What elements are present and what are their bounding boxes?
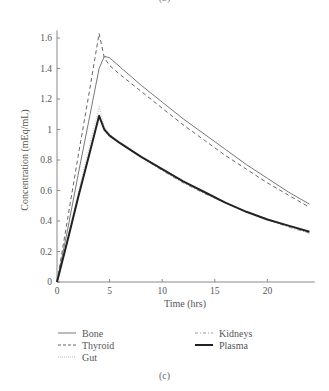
y-tick-label: 0.2 [40, 247, 52, 257]
series-group [57, 33, 310, 282]
legend-label: Kidneys [219, 328, 252, 339]
legend-swatch-kidneys [195, 330, 213, 336]
legend-item-plasma: Plasma [195, 339, 248, 351]
y-tick-label: 1 [47, 125, 52, 135]
series-plasma [57, 116, 310, 282]
y-axis-title: Concentration (mEq/mL) [19, 109, 31, 210]
series-kidneys [57, 116, 310, 282]
axes: 0510152000.20.40.60.811.21.41.6 [40, 30, 315, 296]
legend-label: Gut [82, 352, 97, 363]
y-tick-label: 1.6 [40, 33, 52, 43]
x-tick-label: 5 [107, 286, 112, 296]
legend-swatch-plasma [195, 342, 213, 348]
legend-swatch-gut [58, 354, 76, 360]
bottom-caption: (c) [0, 370, 329, 381]
legend-item-gut: Gut [58, 351, 97, 363]
legend-label: Thyroid [82, 340, 114, 351]
y-tick-label: 1.4 [40, 64, 52, 74]
legend: Bone Thyroid Gut Kidneys Plasma [58, 327, 298, 367]
x-tick-label: 0 [55, 286, 60, 296]
line-chart: 0510152000.20.40.60.811.21.41.6 Time (hr… [0, 0, 329, 320]
x-tick-label: 15 [210, 286, 220, 296]
x-tick-label: 20 [263, 286, 273, 296]
y-tick-label: 0.4 [40, 216, 52, 226]
y-tick-label: 0.8 [40, 155, 52, 165]
legend-label: Plasma [219, 340, 248, 351]
y-tick-label: 0 [47, 277, 52, 287]
legend-label: Bone [82, 328, 103, 339]
legend-item-thyroid: Thyroid [58, 339, 114, 351]
y-tick-label: 1.2 [40, 94, 52, 104]
legend-item-bone: Bone [58, 327, 103, 339]
legend-item-kidneys: Kidneys [195, 327, 252, 339]
series-bone [57, 56, 310, 282]
x-tick-label: 10 [157, 286, 167, 296]
y-tick-label: 0.6 [40, 186, 52, 196]
legend-swatch-thyroid [58, 342, 76, 348]
series-thyroid [57, 33, 310, 282]
legend-swatch-bone [58, 330, 76, 336]
x-axis-title: Time (hrs) [164, 298, 206, 310]
